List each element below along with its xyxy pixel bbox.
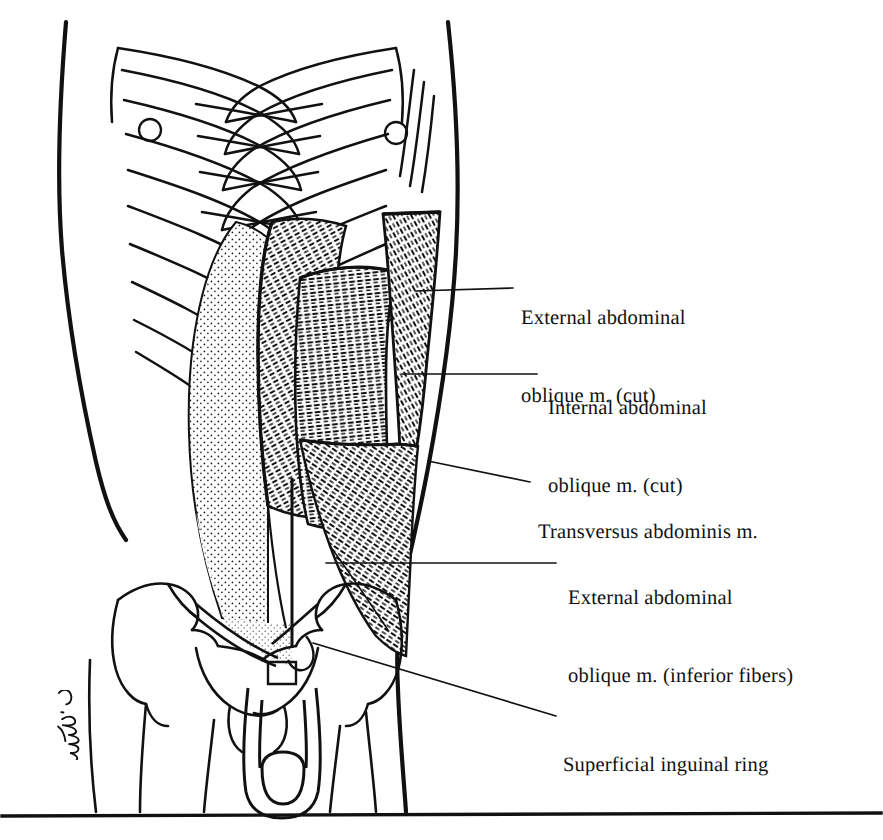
thighs	[89, 660, 376, 812]
anatomy-plate: External abdominal oblique m. (cut) Inte…	[0, 0, 883, 840]
external-oblique-cut-stump	[383, 212, 440, 452]
label-line-1: Internal abdominal	[548, 395, 707, 421]
leader-superficial-inguinal-ring	[313, 643, 556, 716]
label-superficial-inguinal-ring: Superficial inguinal ring	[563, 700, 768, 830]
rectus-sheath-medial-edge	[268, 506, 286, 628]
leader-transversus-abdominis	[428, 461, 530, 482]
label-line-1: Superficial inguinal ring	[563, 752, 768, 778]
label-line-1: External abdominal	[568, 585, 793, 611]
artist-signature	[22, 690, 112, 760]
label-line-2: oblique m. (inferior fibers)	[568, 663, 793, 689]
label-line-1: External abdominal	[521, 305, 686, 331]
